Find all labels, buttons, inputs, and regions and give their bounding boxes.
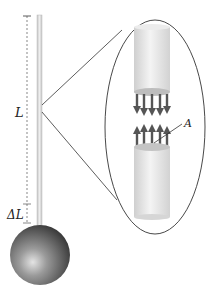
length-label: L — [14, 105, 24, 120]
hanging-mass-sphere — [10, 225, 70, 285]
elongation-label: ΔL — [6, 208, 24, 222]
zoom-line-bottom — [42, 112, 117, 200]
zoom-line-top — [42, 30, 122, 105]
length-dimension — [23, 16, 31, 223]
stretched-rod-diagram: L ΔL A — [0, 0, 218, 290]
downward-stress-arrows — [133, 94, 171, 116]
lower-cylinder-segment — [134, 143, 170, 220]
area-label: A — [183, 117, 192, 130]
rod — [37, 15, 42, 227]
upper-cylinder-segment — [134, 24, 170, 96]
